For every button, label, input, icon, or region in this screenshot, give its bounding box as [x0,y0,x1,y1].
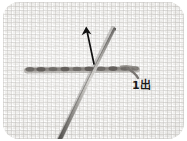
embroidery-instruction-figure: 1出 [0,0,187,141]
embroidery-artwork-layer [3,2,184,139]
photo-plate: 1出 [3,2,184,139]
stitch-direction-arrow [82,27,94,65]
sewing-needle [58,28,116,140]
point-label: 1出 [132,80,151,91]
